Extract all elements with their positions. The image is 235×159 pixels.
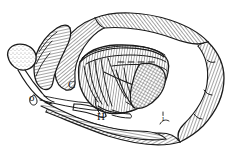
figure-container: C H o i bbox=[0, 0, 235, 159]
label-i: i bbox=[162, 114, 165, 123]
label-h: H bbox=[97, 110, 105, 122]
anatomical-drawing: C H o i bbox=[0, 0, 235, 159]
label-o: o bbox=[29, 91, 35, 103]
label-c: C bbox=[68, 78, 75, 90]
